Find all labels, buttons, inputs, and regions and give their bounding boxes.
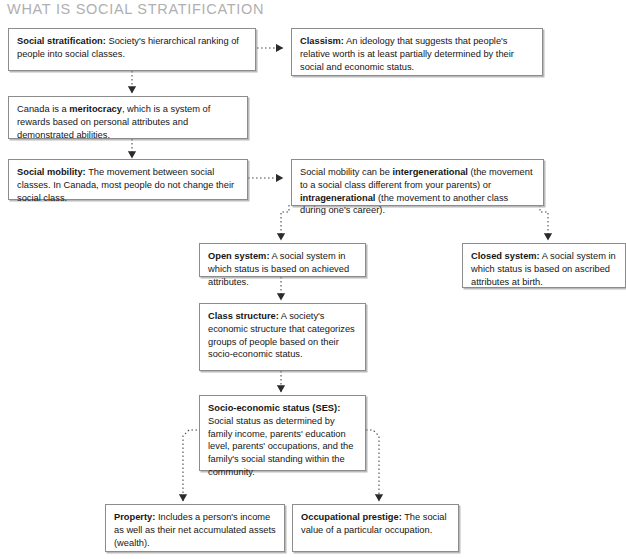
node-meritocracy-pre: Canada is a <box>17 104 69 114</box>
node-closed-system-term: Closed system: <box>471 251 540 261</box>
node-classism-term: Classism: <box>300 36 344 46</box>
node-class-structure-term: Class structure: <box>208 311 279 321</box>
node-mobility-types-term-intra: intragenerational <box>300 193 375 203</box>
node-open-system: Open system: A social system in which st… <box>199 243 366 277</box>
connector-mobility-types-to-closed-system <box>540 205 548 240</box>
node-social-mobility-term: Social mobility: <box>17 167 86 177</box>
node-class-structure: Class structure: A society's economic st… <box>199 303 366 371</box>
node-mobility-types-term-inter: intergenerational <box>393 167 468 177</box>
connector-ses-to-property <box>183 430 197 501</box>
node-occupational-prestige: Occupational prestige: The social value … <box>292 504 459 552</box>
node-meritocracy-term: meritocracy <box>69 104 122 114</box>
page-title: WHAT IS SOCIAL STRATIFICATION <box>7 1 264 17</box>
node-closed-system: Closed system: A social system in which … <box>462 243 626 288</box>
node-mobility-types: Social mobility can be intergenerational… <box>291 159 544 206</box>
connector-mobility-types-to-open-system <box>281 205 289 240</box>
node-social-stratification: Social stratification: Society's hierarc… <box>8 28 256 71</box>
node-open-system-term: Open system: <box>208 251 269 261</box>
node-ses-term: Socio-economic status (SES): <box>208 403 340 413</box>
node-meritocracy: Canada is a meritocracy, which is a syst… <box>8 96 248 139</box>
node-property: Property: Includes a person's income as … <box>105 504 285 552</box>
node-classism: Classism: An ideology that suggests that… <box>291 28 543 76</box>
node-mobility-types-pre: Social mobility can be <box>300 167 393 177</box>
node-social-stratification-term: Social stratification: <box>17 36 106 46</box>
node-occupational-prestige-term: Occupational prestige: <box>301 512 402 522</box>
flowchart-diagram: WHAT IS SOCIAL STRATIFICATION <box>0 0 626 559</box>
node-ses-text: Social status as determined by family in… <box>208 416 353 477</box>
node-ses: Socio-economic status (SES): Social stat… <box>199 395 366 471</box>
connector-ses-to-occupational-prestige <box>366 430 379 501</box>
node-social-mobility: Social mobility: The movement between so… <box>8 159 248 200</box>
node-property-term: Property: <box>114 512 155 522</box>
